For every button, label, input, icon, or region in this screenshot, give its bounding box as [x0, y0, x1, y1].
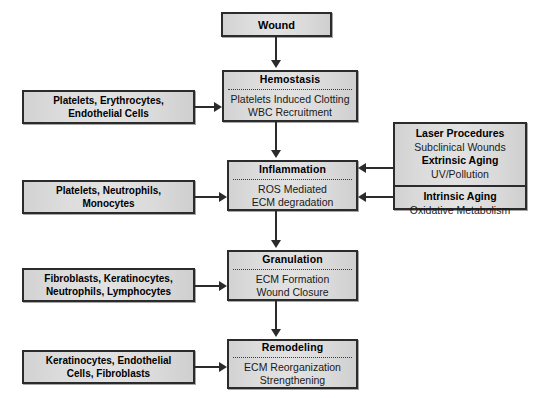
- connector-intrinsic-factors-to-inflammation: [366, 196, 395, 198]
- node-remodeling[interactable]: Remodeling ECM Reorganization Strengthen…: [227, 339, 358, 389]
- arrowhead-granulation-to-remodeling: [271, 329, 281, 337]
- node-inflammation-title: Inflammation: [229, 160, 356, 179]
- factor-subclinical-wounds-label: Subclinical Wounds: [399, 141, 521, 155]
- factor-intrinsic-aging-label: Intrinsic Aging: [399, 190, 521, 204]
- arrowhead-inflammation-to-granulation: [271, 240, 281, 248]
- arrowhead-cells-remodeling: [219, 362, 227, 372]
- arrowhead-cells-inflammation: [219, 192, 227, 202]
- node-cells-granulation[interactable]: Fibroblasts, Keratinocytes, Neutrophils,…: [22, 268, 195, 302]
- connector-cells-inflammation-to-inflammation: [195, 196, 221, 198]
- node-remodeling-title: Remodeling: [229, 338, 356, 357]
- node-granulation-body-line-2: Wound Closure: [232, 286, 353, 299]
- node-granulation-body-line-1: ECM Formation: [232, 273, 353, 286]
- arrowhead-cells-hemostasis: [214, 102, 222, 112]
- node-remodeling-body: ECM Reorganization Strengthening: [229, 358, 356, 390]
- arrowhead-intrinsic-factors: [358, 192, 366, 202]
- node-cells-hemostasis[interactable]: Platelets, Erythrocytes, Endothelial Cel…: [22, 90, 195, 124]
- node-cells-remodeling[interactable]: Keratinocytes, Endothelial Cells, Fibrob…: [22, 350, 195, 384]
- factor-laser-procedures-label: Laser Procedures: [399, 127, 521, 141]
- node-cells-inflammation-line-1: Platelets, Neutrophils,: [28, 184, 189, 197]
- node-aging-factors-extrinsic: Laser Procedures Subclinical Wounds Extr…: [395, 124, 525, 185]
- node-cells-granulation-line-2: Neutrophils, Lymphocytes: [28, 285, 189, 298]
- node-granulation-title: Granulation: [229, 250, 356, 269]
- node-aging-factors-intrinsic: Intrinsic Aging Oxidative Metabolism: [395, 185, 525, 221]
- node-hemostasis-body: Platelets Induced Clotting WBC Recruitme…: [224, 90, 356, 122]
- node-hemostasis-body-line-2: WBC Recruitment: [227, 106, 353, 119]
- node-hemostasis[interactable]: Hemostasis Platelets Induced Clotting WB…: [222, 70, 358, 122]
- node-cells-granulation-line-1: Fibroblasts, Keratinocytes,: [28, 272, 189, 285]
- factor-oxidative-metabolism-label: Oxidative Metabolism: [399, 204, 521, 218]
- node-wound[interactable]: Wound: [221, 12, 332, 37]
- node-remodeling-body-line-1: ECM Reorganization: [232, 361, 353, 374]
- node-cells-inflammation[interactable]: Platelets, Neutrophils, Monocytes: [22, 180, 195, 214]
- node-wound-label: Wound: [223, 18, 330, 32]
- node-inflammation-body-line-2: ECM degradation: [232, 196, 353, 209]
- node-inflammation-body-line-1: ROS Mediated: [232, 183, 353, 196]
- node-inflammation-body: ROS Mediated ECM degradation: [229, 180, 356, 212]
- node-cells-inflammation-line-2: Monocytes: [28, 197, 189, 210]
- arrowhead-hemostasis-to-inflammation: [271, 150, 281, 158]
- connector-cells-hemostasis-to-hemostasis: [195, 106, 216, 108]
- node-granulation-body: ECM Formation Wound Closure: [229, 270, 356, 302]
- node-inflammation[interactable]: Inflammation ROS Mediated ECM degradatio…: [227, 160, 358, 211]
- node-cells-remodeling-line-2: Cells, Fibroblasts: [28, 367, 189, 380]
- node-granulation[interactable]: Granulation ECM Formation Wound Closure: [227, 250, 358, 301]
- connector-hemostasis-to-inflammation: [275, 122, 277, 153]
- node-hemostasis-body-line-1: Platelets Induced Clotting: [227, 93, 353, 106]
- connector-granulation-to-remodeling: [275, 301, 277, 332]
- node-hemostasis-title: Hemostasis: [224, 70, 356, 89]
- node-cells-remodeling-line-1: Keratinocytes, Endothelial: [28, 354, 189, 367]
- connector-cells-remodeling-to-remodeling: [195, 366, 221, 368]
- flowchart-canvas: Wound Hemostasis Platelets Induced Clott…: [0, 0, 541, 398]
- factor-extrinsic-aging-label: Extrinsic Aging: [399, 154, 521, 168]
- node-cells-hemostasis-line-2: Endothelial Cells: [28, 107, 189, 120]
- arrowhead-wound-to-hemostasis: [271, 60, 281, 68]
- node-remodeling-body-line-2: Strengthening: [232, 374, 353, 387]
- connector-cells-granulation-to-granulation: [195, 285, 221, 287]
- factor-uv-pollution-label: UV/Pollution: [399, 168, 521, 182]
- arrowhead-extrinsic-factors: [358, 163, 366, 173]
- node-aging-factors[interactable]: Laser Procedures Subclinical Wounds Extr…: [393, 122, 527, 210]
- connector-wound-to-hemostasis: [275, 37, 277, 62]
- arrowhead-cells-granulation: [219, 281, 227, 291]
- node-cells-hemostasis-line-1: Platelets, Erythrocytes,: [28, 94, 189, 107]
- connector-extrinsic-factors-to-inflammation: [366, 167, 395, 169]
